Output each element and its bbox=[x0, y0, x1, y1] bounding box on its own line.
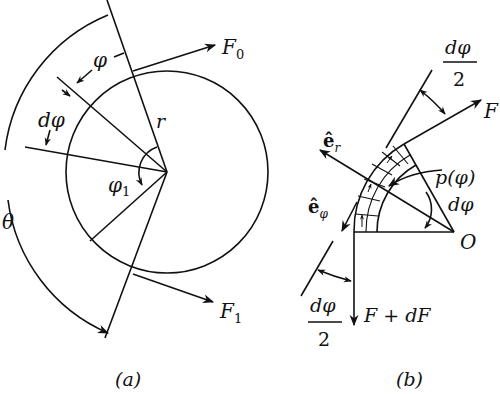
tangent-ref-top bbox=[386, 70, 432, 148]
label-dphi-half-top-den: 2 bbox=[453, 68, 465, 90]
F0-arrow bbox=[133, 45, 215, 71]
label-r: r bbox=[156, 110, 167, 132]
label-phi: φ bbox=[93, 48, 107, 72]
caption-b: (b) bbox=[396, 368, 423, 390]
label-dphi-O: dφ bbox=[448, 193, 474, 215]
phi-arc-arrow bbox=[77, 70, 92, 83]
label-dphi-half-bottom-den: 2 bbox=[318, 328, 330, 350]
label-theta: θ bbox=[2, 210, 14, 234]
label-dphi-half-top-num: dφ bbox=[445, 36, 471, 58]
dphi-arrow-bottom bbox=[46, 130, 50, 145]
figure-a-labels: F0 r φ dφ φ1 θ F1 (a) bbox=[2, 35, 244, 390]
dphi-half-bottom-arc bbox=[318, 270, 351, 281]
r-angle-arc bbox=[139, 147, 157, 185]
label-F-plus-dF: F + dF bbox=[363, 304, 431, 326]
belt-friction-diagram: F0 r φ dφ φ1 θ F1 (a) bbox=[0, 0, 500, 394]
F1-arrow bbox=[133, 274, 213, 302]
caption-a: (a) bbox=[115, 368, 141, 390]
dphi-arrow-top bbox=[62, 90, 70, 96]
radial-line-dphi bbox=[25, 147, 167, 172]
figure-b-labels: dφ 2 F êr p(φ) dφ O êφ dφ 2 F + dF (b) bbox=[308, 36, 499, 390]
label-dphi-half-bottom-num: dφ bbox=[310, 294, 336, 316]
label-ephi: êφ bbox=[308, 196, 328, 221]
phi-arc bbox=[114, 53, 124, 57]
radial-line-phi1 bbox=[90, 172, 167, 241]
label-F: F bbox=[483, 99, 499, 123]
label-phi1: φ1 bbox=[108, 173, 130, 199]
dphi-half-top-arc bbox=[420, 90, 445, 114]
dphi-angle-arc-O bbox=[425, 192, 432, 228]
label-dphi: dφ bbox=[38, 108, 65, 132]
label-F0: F0 bbox=[221, 35, 244, 62]
F-arrow bbox=[404, 100, 481, 144]
radius-upper bbox=[404, 144, 454, 232]
label-p-phi: p(φ) bbox=[435, 166, 475, 188]
label-O: O bbox=[460, 230, 476, 254]
tangent-ref-bottom bbox=[301, 241, 333, 296]
label-F1: F1 bbox=[219, 299, 242, 326]
belt-outer-arc bbox=[354, 144, 404, 232]
label-er: êr bbox=[323, 130, 341, 155]
